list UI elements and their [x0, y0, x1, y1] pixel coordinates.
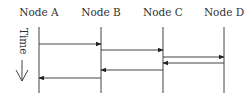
sequence-diagram: Node A Node B Node C Node D Time — [0, 0, 252, 97]
node-b-label: Node B — [81, 6, 121, 18]
node-a-label: Node A — [19, 6, 58, 18]
time-axis-label: Time — [18, 28, 30, 55]
node-c-label: Node C — [143, 6, 183, 18]
time-arrow-icon — [16, 60, 28, 81]
node-d-label: Node D — [204, 6, 244, 18]
